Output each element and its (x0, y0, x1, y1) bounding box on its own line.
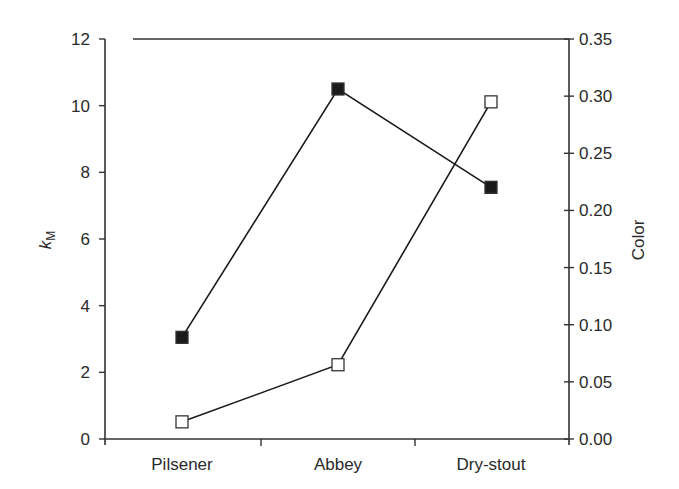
open-square-marker (332, 359, 344, 371)
right-y-tick-label: 0.15 (579, 259, 612, 278)
filled-square-marker (176, 331, 188, 343)
series-line-km (182, 89, 491, 337)
right-y-tick-label: 0.20 (579, 201, 612, 220)
open-square-marker (176, 416, 188, 428)
x-category-label: Pilsener (151, 455, 213, 474)
left-y-tick-label: 4 (81, 297, 90, 316)
left-y-tick-label: 2 (81, 363, 90, 382)
left-y-tick-label: 0 (81, 430, 90, 449)
left-y-axis-title: kM (36, 231, 58, 250)
right-y-tick-label: 0.05 (579, 373, 612, 392)
filled-square-marker (485, 181, 497, 193)
series (176, 83, 497, 428)
right-y-tick-label: 0.25 (579, 144, 612, 163)
series-line-color (182, 102, 491, 422)
left-y-tick-label: 12 (71, 30, 90, 49)
chart: 0246810120.000.050.100.150.200.250.300.3… (0, 0, 679, 489)
right-y-tick-label: 0.35 (579, 30, 612, 49)
open-square-marker (485, 96, 497, 108)
right-y-axis-title: Color (629, 219, 648, 260)
right-y-tick-label: 0.10 (579, 316, 612, 335)
left-y-tick-label: 8 (81, 163, 90, 182)
left-y-tick-label: 6 (81, 230, 90, 249)
left-y-tick-label: 10 (71, 97, 90, 116)
axes (99, 39, 574, 446)
labels: 0246810120.000.050.100.150.200.250.300.3… (36, 30, 648, 474)
filled-square-marker (332, 83, 344, 95)
x-category-label: Abbey (314, 455, 363, 474)
right-y-tick-label: 0.30 (579, 87, 612, 106)
x-category-label: Dry-stout (457, 455, 526, 474)
right-y-tick-label: 0.00 (579, 430, 612, 449)
